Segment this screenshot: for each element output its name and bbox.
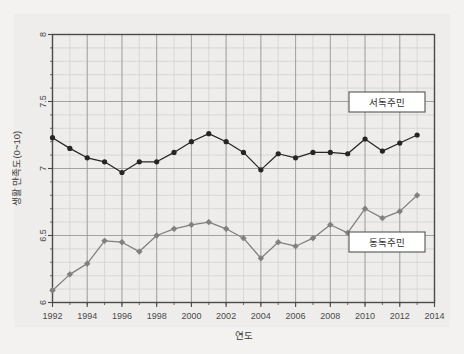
x-tick-label: 2006: [286, 311, 306, 321]
legend-box-east: 동독주민: [349, 232, 425, 252]
data-point: [258, 167, 263, 172]
data-point: [171, 226, 177, 232]
x-tick-label: 2000: [181, 311, 201, 321]
y-tick-label: 6: [38, 300, 48, 305]
data-point: [345, 151, 350, 156]
y-tick-label: 7.5: [38, 95, 48, 108]
chart-legend: 서독주민동독주민: [349, 92, 425, 252]
data-point: [189, 222, 195, 228]
x-tick-label: 2010: [355, 311, 375, 321]
x-tick-label: 1996: [112, 311, 132, 321]
data-point: [85, 155, 90, 160]
data-point: [189, 139, 194, 144]
data-point: [380, 215, 386, 221]
y-axis-label: 생활 만족도(0~10): [11, 131, 22, 206]
axis-ticks: [48, 35, 435, 308]
x-tick-label: 1998: [147, 311, 167, 321]
data-point: [206, 219, 212, 225]
legend-label: 서독주민: [369, 97, 405, 108]
data-point: [206, 131, 211, 136]
data-point: [362, 136, 367, 141]
x-axis-tick-labels: 1992199419961998200020022004200620082010…: [42, 311, 444, 321]
y-tick-label: 8: [38, 32, 48, 37]
chart-figure: 1992199419961998200020022004200620082010…: [0, 0, 464, 354]
data-point: [241, 150, 246, 155]
data-point: [293, 155, 298, 160]
plot-container: 1992199419961998200020022004200620082010…: [0, 0, 464, 354]
legend-box-west: 서독주민: [349, 92, 425, 112]
data-point: [119, 239, 125, 245]
data-point: [415, 132, 420, 137]
data-point: [119, 170, 124, 175]
x-tick-label: 1992: [42, 311, 62, 321]
x-axis-label: 연도: [235, 330, 253, 341]
data-point: [293, 243, 299, 249]
data-point: [328, 150, 333, 155]
data-point: [154, 159, 159, 164]
x-tick-label: 2012: [390, 311, 410, 321]
data-point: [224, 139, 229, 144]
x-tick-label: 2004: [251, 311, 271, 321]
data-point: [102, 159, 107, 164]
data-point: [223, 226, 229, 232]
y-axis-tick-labels: 66.577.58: [38, 32, 48, 305]
legend-label: 동독주민: [369, 237, 405, 248]
data-point: [397, 140, 402, 145]
data-point: [171, 150, 176, 155]
life-satisfaction-line-chart: 1992199419961998200020022004200620082010…: [0, 0, 464, 354]
data-point: [50, 135, 55, 140]
x-tick-label: 2002: [216, 311, 236, 321]
x-tick-label: 1994: [77, 311, 97, 321]
data-point: [380, 148, 385, 153]
data-point: [67, 146, 72, 151]
data-point: [137, 159, 142, 164]
x-tick-label: 2008: [320, 311, 340, 321]
x-tick-label: 2014: [424, 311, 444, 321]
data-point: [276, 151, 281, 156]
y-tick-label: 7: [38, 166, 48, 171]
y-tick-label: 6.5: [38, 229, 48, 242]
data-point: [310, 150, 315, 155]
